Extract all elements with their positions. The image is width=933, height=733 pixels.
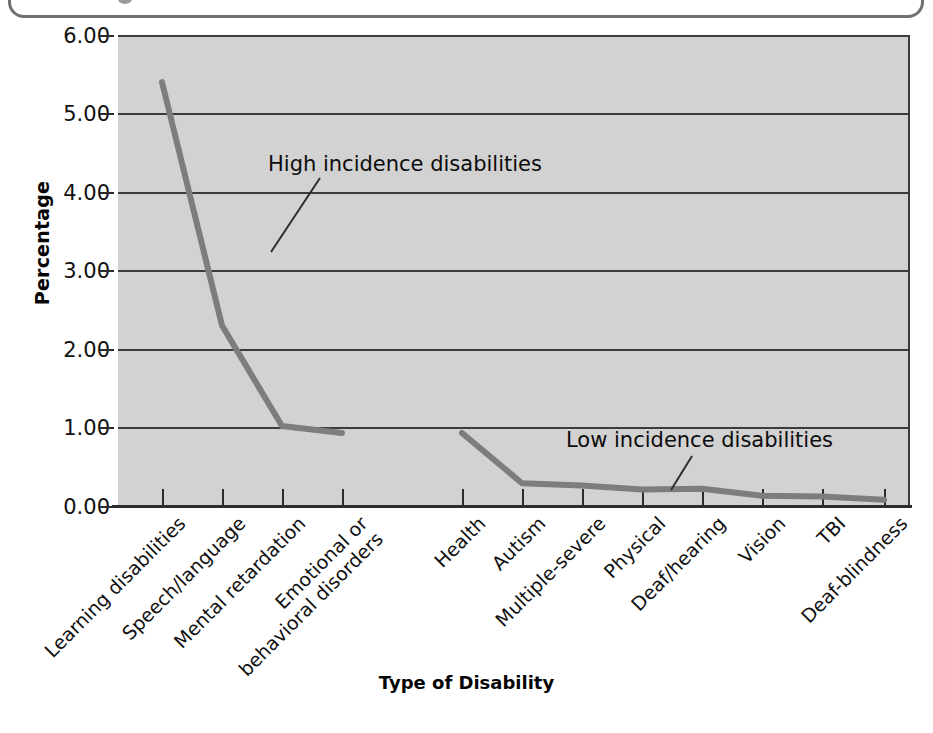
y-tick-mark-1	[100, 427, 114, 429]
x-tick-10	[762, 489, 764, 506]
x-axis-title: Type of Disability	[0, 672, 933, 693]
y-tick-label-5: 5.00	[18, 104, 110, 125]
x-tick-9	[702, 489, 704, 506]
y-tick-mark-5	[100, 113, 114, 115]
x-tick-3	[342, 489, 344, 506]
x-category-label-deaf-blindness: Deaf-blindness	[796, 512, 911, 627]
y-tick-label-1: 1.00	[18, 418, 110, 439]
y-tick-label-4: 4.00	[18, 183, 110, 204]
y-tick-label-0: 0.00	[18, 497, 110, 518]
x-category-label-tbi: TBI	[813, 512, 850, 549]
annotation-low-incidence: Low incidence disabilities	[566, 428, 833, 452]
gridline-4	[118, 192, 910, 194]
x-category-label-emotional-behavioral: Emotional or behavioral disorders	[215, 512, 388, 685]
annotation-high-incidence: High incidence disabilities	[268, 152, 542, 176]
x-tick-8	[642, 489, 644, 506]
x-tick-11	[822, 489, 824, 506]
figure: Percentage 6.00 5.00 4.00 3.00 2.00 1.00…	[0, 0, 933, 733]
x-category-label-health: Health	[430, 512, 490, 572]
x-axis-line	[112, 505, 912, 508]
gridline-3	[118, 270, 910, 272]
y-tick-label-3: 3.00	[18, 261, 110, 282]
x-tick-5	[462, 489, 464, 506]
x-tick-0	[162, 489, 164, 506]
y-tick-mark-3	[100, 270, 114, 272]
y-axis-tick-labels: 6.00 5.00 4.00 3.00 2.00 1.00 0.00	[0, 0, 110, 540]
x-tick-7	[582, 489, 584, 506]
gridline-6	[118, 35, 910, 37]
x-tick-1	[222, 489, 224, 506]
x-tick-12	[884, 489, 886, 506]
x-tick-6	[522, 489, 524, 506]
x-category-label-vision: Vision	[734, 512, 790, 568]
y-tick-label-6: 6.00	[18, 26, 110, 47]
plot-right-border	[908, 35, 910, 507]
x-category-label-multiple-severe: Multiple-severe	[491, 512, 610, 631]
gridline-2	[118, 349, 910, 351]
y-tick-mark-6	[100, 35, 114, 37]
y-tick-mark-4	[100, 192, 114, 194]
x-tick-2	[282, 489, 284, 506]
y-tick-mark-2	[100, 349, 114, 351]
y-tick-label-2: 2.00	[18, 340, 110, 361]
gridline-5	[118, 113, 910, 115]
title-box-frame	[8, 0, 924, 18]
